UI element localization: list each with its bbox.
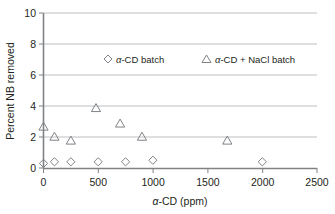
- x-axis-title: α-CD (ppm): [153, 195, 208, 207]
- scatter-plot: 10 8 6 4 2 0 0 500 1000 1500 2000 2500 P…: [0, 0, 335, 214]
- svg-text:α-CD + NaCl batch: α-CD + NaCl batch: [215, 54, 295, 65]
- y-tick-label-6: 6: [30, 69, 36, 81]
- y-tick-label-2: 2: [30, 131, 36, 143]
- y-axis-title: Percent NB removed: [4, 42, 16, 140]
- x-axis-title-rest: -CD (ppm): [159, 195, 208, 207]
- x-tick-label-1500: 1500: [196, 176, 220, 188]
- svg-text:α-CD (ppm): α-CD (ppm): [153, 195, 208, 207]
- legend-label-2: -CD + NaCl batch: [220, 54, 295, 65]
- legend-label-1: -CD batch: [121, 54, 164, 65]
- x-tick-label-1000: 1000: [141, 176, 165, 188]
- y-tick-label-10: 10: [24, 7, 36, 19]
- legend-entry-alpha-cd-nacl-batch[interactable]: α-CD + NaCl batch: [202, 54, 295, 65]
- y-tick-label-4: 4: [30, 100, 36, 112]
- x-tick-label-2500: 2500: [305, 176, 329, 188]
- y-tick-label-0: 0: [30, 162, 36, 174]
- y-tick-label-8: 8: [30, 38, 36, 50]
- chart-container: 10 8 6 4 2 0 0 500 1000 1500 2000 2500 P…: [0, 0, 335, 214]
- svg-text:α-CD batch: α-CD batch: [116, 54, 164, 65]
- x-tick-label-2000: 2000: [251, 176, 275, 188]
- chart-background: [0, 0, 335, 214]
- x-tick-label-500: 500: [90, 176, 108, 188]
- x-tick-label-0: 0: [41, 176, 47, 188]
